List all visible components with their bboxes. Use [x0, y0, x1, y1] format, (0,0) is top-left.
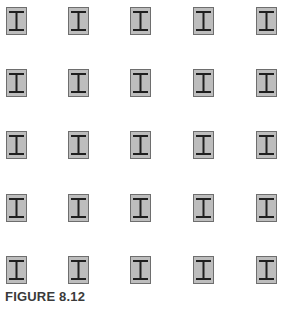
i-beam-cell — [130, 131, 151, 159]
i-beam-icon — [7, 257, 26, 283]
i-beam-icon — [257, 257, 276, 283]
i-beam-cell — [256, 131, 277, 159]
i-beam-cell — [6, 256, 27, 284]
i-beam-cell — [130, 69, 151, 97]
i-beam-icon — [69, 195, 88, 221]
i-beam-icon — [257, 195, 276, 221]
i-beam-grid — [0, 0, 283, 290]
i-beam-cell — [193, 131, 214, 159]
figure-caption: FIGURE 8.12 — [5, 289, 85, 304]
i-beam-icon — [69, 257, 88, 283]
i-beam-icon — [194, 195, 213, 221]
i-beam-icon — [257, 132, 276, 158]
i-beam-icon — [194, 132, 213, 158]
i-beam-cell — [130, 256, 151, 284]
i-beam-icon — [131, 132, 150, 158]
i-beam-icon — [69, 8, 88, 34]
i-beam-icon — [69, 70, 88, 96]
i-beam-icon — [257, 70, 276, 96]
i-beam-icon — [194, 8, 213, 34]
i-beam-cell — [130, 194, 151, 222]
i-beam-cell — [256, 7, 277, 35]
i-beam-cell — [68, 194, 89, 222]
i-beam-cell — [68, 131, 89, 159]
i-beam-icon — [257, 8, 276, 34]
i-beam-icon — [131, 195, 150, 221]
i-beam-cell — [68, 256, 89, 284]
i-beam-cell — [68, 7, 89, 35]
i-beam-icon — [7, 195, 26, 221]
i-beam-cell — [6, 69, 27, 97]
i-beam-icon — [194, 257, 213, 283]
i-beam-icon — [131, 8, 150, 34]
i-beam-icon — [7, 132, 26, 158]
i-beam-cell — [193, 256, 214, 284]
i-beam-cell — [256, 69, 277, 97]
i-beam-cell — [6, 131, 27, 159]
i-beam-icon — [69, 132, 88, 158]
i-beam-icon — [131, 70, 150, 96]
i-beam-cell — [193, 69, 214, 97]
i-beam-icon — [194, 70, 213, 96]
i-beam-cell — [6, 194, 27, 222]
i-beam-cell — [256, 194, 277, 222]
i-beam-cell — [193, 194, 214, 222]
i-beam-cell — [193, 7, 214, 35]
i-beam-cell — [256, 256, 277, 284]
i-beam-icon — [7, 70, 26, 96]
i-beam-icon — [131, 257, 150, 283]
i-beam-icon — [7, 8, 26, 34]
i-beam-cell — [130, 7, 151, 35]
i-beam-cell — [68, 69, 89, 97]
i-beam-cell — [6, 7, 27, 35]
